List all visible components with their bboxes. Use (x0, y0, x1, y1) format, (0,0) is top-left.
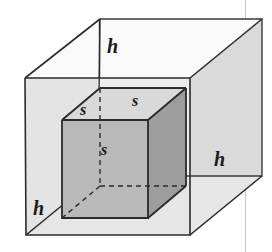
label-height-left: h (33, 197, 44, 219)
inner-cube-front-face (62, 120, 148, 218)
label-side-top-left: s (79, 101, 86, 118)
cube-in-box-diagram: h h h s s s (0, 0, 272, 252)
label-side-top-right: s (131, 92, 138, 109)
label-height-top: h (107, 35, 118, 57)
label-side-front: s (100, 141, 107, 158)
geometry-figure: h h h s s s (0, 0, 272, 252)
label-height-right: h (214, 148, 225, 170)
